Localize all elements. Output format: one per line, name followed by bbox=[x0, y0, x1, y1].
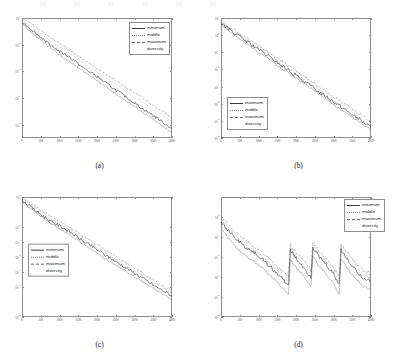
y-tick-label: 10-4 bbox=[15, 69, 20, 74]
x-tick-label: 1000 bbox=[56, 139, 62, 143]
y-tick-label: 10-3 bbox=[214, 84, 219, 89]
y-tick-label: 10-5 bbox=[15, 269, 20, 274]
y-tick-label: 100 bbox=[215, 33, 219, 38]
legend-label: maximum bbox=[362, 217, 381, 221]
legend-item-diversity: diversity bbox=[132, 46, 166, 52]
x-tick-label: 500 bbox=[38, 139, 43, 143]
legend-item-diversity: diversity bbox=[347, 223, 381, 229]
y-tick-label: 10-6 bbox=[214, 135, 219, 140]
y-tick-label: 10-2 bbox=[15, 42, 20, 47]
x-tick-label: 2500 bbox=[312, 318, 318, 322]
subfigure-caption-c: (c) bbox=[0, 340, 199, 349]
x-tick-mark bbox=[172, 197, 173, 199]
panel-d: 10010-110-210-310-410-505001000150020002… bbox=[199, 179, 398, 358]
legend-item-middle: middle bbox=[31, 254, 65, 260]
figure-sheet: 10010-210-410-610-8050010001500200025003… bbox=[0, 0, 398, 358]
panel-grid: 10010-210-410-610-8050010001500200025003… bbox=[0, 0, 398, 358]
x-tick-label: 3000 bbox=[131, 318, 137, 322]
legend-swatch-icon bbox=[132, 33, 145, 37]
x-tick-label: 1500 bbox=[75, 139, 81, 143]
subfigure-caption-a: (a) bbox=[0, 161, 199, 170]
x-tick-label: 2000 bbox=[293, 318, 299, 322]
legend-item-minimum: minimum bbox=[31, 247, 65, 253]
legend-swatch-icon bbox=[31, 269, 44, 273]
legend-label: diversity bbox=[245, 122, 261, 126]
plot-area-d: 10010-110-210-310-410-505001000150020002… bbox=[221, 197, 371, 317]
x-tick-label: 0 bbox=[220, 139, 222, 143]
y-tick-label: 10-5 bbox=[214, 118, 219, 123]
x-tick-label: 2000 bbox=[293, 139, 299, 143]
legend-swatch-icon bbox=[230, 122, 243, 126]
x-tick-mark bbox=[371, 315, 372, 317]
panel-b: 10110010-110-210-310-410-510-60500100015… bbox=[199, 0, 398, 179]
legend-item-middle: middle bbox=[347, 209, 381, 215]
x-tick-label: 3000 bbox=[131, 139, 137, 143]
x-tick-label: 3500 bbox=[349, 318, 355, 322]
legend-swatch-icon bbox=[347, 224, 360, 228]
legend-swatch-icon bbox=[31, 255, 44, 259]
plot-area-c: 10010-210-310-410-510-610-80500100015002… bbox=[22, 197, 172, 317]
legend-label: middle bbox=[245, 108, 258, 112]
x-tick-label: 3500 bbox=[150, 139, 156, 143]
legend-label: minimum bbox=[362, 203, 380, 207]
panel-a: 10010-210-410-610-8050010001500200025003… bbox=[0, 0, 199, 179]
x-tick-label: 2500 bbox=[312, 139, 318, 143]
legend-label: diversity bbox=[147, 47, 163, 51]
y-tick-label: 10-3 bbox=[214, 274, 219, 279]
x-tick-label: 4000 bbox=[368, 318, 374, 322]
y-tick-label: 10-8 bbox=[15, 122, 20, 127]
x-tick-label: 3500 bbox=[150, 318, 156, 322]
legend-label: minimum bbox=[147, 26, 165, 30]
y-tick-label: 10-4 bbox=[214, 101, 219, 106]
legend-swatch-icon bbox=[132, 47, 145, 51]
y-tick-label: 10-6 bbox=[15, 95, 20, 100]
legend-item-diversity: diversity bbox=[230, 121, 264, 127]
legend-label: middle bbox=[46, 255, 59, 259]
legend-label: middle bbox=[147, 33, 160, 37]
x-tick-label: 4000 bbox=[368, 139, 374, 143]
plot-area-b: 10110010-110-210-310-410-510-60500100015… bbox=[221, 18, 371, 138]
y-tick-label: 10-2 bbox=[15, 224, 20, 229]
panel-c: 10010-210-310-410-510-610-80500100015002… bbox=[0, 179, 199, 358]
x-tick-label: 2500 bbox=[113, 139, 119, 143]
legend-label: maximum bbox=[46, 262, 65, 266]
x-tick-label: 0 bbox=[21, 318, 23, 322]
legend-label: maximum bbox=[147, 40, 166, 44]
x-tick-label: 1000 bbox=[56, 318, 62, 322]
legend-swatch-icon bbox=[347, 217, 360, 221]
x-tick-label: 2000 bbox=[94, 139, 100, 143]
y-tick-label: 10-1 bbox=[214, 234, 219, 239]
x-tick-mark bbox=[172, 18, 173, 20]
legend-swatch-icon bbox=[347, 210, 360, 214]
subfigure-caption-b: (b) bbox=[199, 161, 398, 170]
x-tick-label: 1500 bbox=[274, 139, 280, 143]
y-tick-label: 10-4 bbox=[15, 254, 20, 259]
x-tick-label: 2000 bbox=[94, 318, 100, 322]
legend-swatch-icon bbox=[132, 40, 145, 44]
legend-d: minimummiddlemaximumdiversity bbox=[344, 199, 385, 232]
x-tick-label: 3000 bbox=[330, 318, 336, 322]
legend-item-maximum: maximum bbox=[31, 261, 65, 267]
x-tick-label: 500 bbox=[237, 318, 242, 322]
legend-item-maximum: maximum bbox=[132, 39, 166, 45]
y-tick-label: 10-6 bbox=[15, 284, 20, 289]
x-tick-label: 3000 bbox=[330, 139, 336, 143]
y-tick-label: 10-1 bbox=[214, 50, 219, 55]
legend-swatch-icon bbox=[230, 115, 243, 119]
legend-label: diversity bbox=[362, 224, 378, 228]
legend-b: minimummiddlemaximumdiversity bbox=[227, 97, 268, 130]
y-tick-label: 10-3 bbox=[15, 239, 20, 244]
x-tick-mark bbox=[371, 18, 372, 20]
legend-swatch-icon bbox=[230, 108, 243, 112]
x-tick-label: 0 bbox=[21, 139, 23, 143]
legend-label: diversity bbox=[46, 269, 62, 273]
x-tick-label: 3500 bbox=[349, 139, 355, 143]
legend-c: minimummiddlemaximumdiversity bbox=[28, 244, 69, 277]
legend-item-minimum: minimum bbox=[347, 202, 381, 208]
legend-swatch-icon bbox=[31, 262, 44, 266]
legend-item-middle: middle bbox=[132, 32, 166, 38]
legend-a: minimummiddlemaximumdiversity bbox=[129, 22, 170, 55]
x-tick-label: 2500 bbox=[113, 318, 119, 322]
x-tick-label: 1000 bbox=[255, 318, 261, 322]
x-tick-label: 1000 bbox=[255, 139, 261, 143]
